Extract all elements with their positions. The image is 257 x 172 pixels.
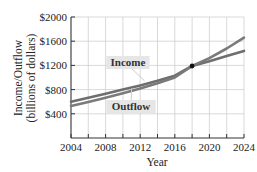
y-tick-label: $1600 <box>40 35 68 47</box>
y-tick-label: $400 <box>45 108 68 120</box>
x-tick-label: 2020 <box>198 141 221 153</box>
series-label-outflow: Outflow <box>112 100 151 112</box>
y-tick-label: $2000 <box>40 11 68 23</box>
y-tick-label: $1200 <box>40 59 68 71</box>
y-axis-title-sub: (billions of dollars) <box>25 33 38 122</box>
x-tick-label: 2008 <box>95 141 118 153</box>
x-tick-label: 2012 <box>129 141 151 153</box>
x-axis-title: Year <box>146 156 167 168</box>
x-tick-label: 2024 <box>233 141 256 153</box>
tick-labels: $400$800$1200$1600$200020042008201220162… <box>40 11 256 153</box>
y-tick-label: $800 <box>45 84 68 96</box>
y-axis-title-main: Income/Outflow <box>12 39 24 116</box>
grid-lines <box>71 17 244 138</box>
series-label-income: Income <box>111 56 146 68</box>
y-axis-title: Income/Outflow (billions of dollars) <box>12 33 38 122</box>
intersection-point <box>190 64 195 69</box>
income-outflow-chart: IncomeOutflow $400$800$1200$1600$2000200… <box>0 0 257 172</box>
x-tick-label: 2016 <box>164 141 187 153</box>
x-tick-label: 2004 <box>60 141 83 153</box>
